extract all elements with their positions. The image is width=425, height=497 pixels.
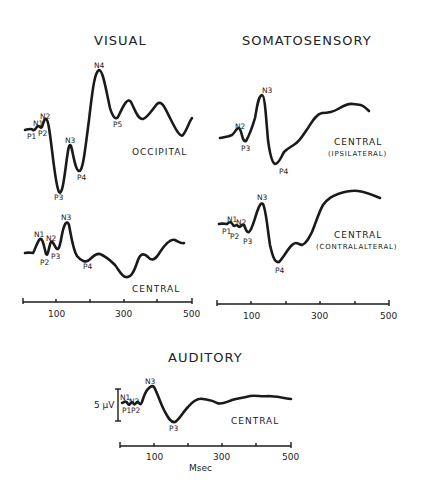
peak-label: N2 [235, 123, 245, 131]
peak-label: P4 [77, 174, 86, 182]
scale-bar-label: 5 µV [94, 400, 114, 410]
site-sublabel-contralateral: (CONTRALALTERAL) [316, 243, 397, 251]
peak-label: N3 [262, 87, 272, 95]
tick-label: 500 [183, 309, 200, 319]
peak-label: N3 [257, 194, 267, 202]
peak-label: N3 [65, 137, 75, 145]
tick-label: 300 [115, 309, 132, 319]
peak-label: N3 [145, 378, 155, 386]
peak-label: P3 [51, 253, 60, 261]
peak-label: P2 [230, 233, 239, 241]
tick-label: 100 [146, 452, 163, 462]
peak-label: P5 [113, 121, 122, 129]
peak-label: P3 [243, 238, 252, 246]
visual-title: VISUAL [94, 33, 147, 48]
peak-label: N1 [34, 231, 44, 239]
x-axis-label: Msec [189, 463, 212, 473]
site-label-central: CENTRAL [334, 230, 382, 240]
visual-occipital-trace [25, 70, 192, 193]
tick-label: 100 [243, 311, 260, 321]
peak-label: N2 [46, 235, 56, 243]
somatosensory-title: SOMATOSENSORY [242, 33, 372, 48]
visual-central-trace [25, 223, 184, 278]
peak-label: P4 [275, 267, 284, 275]
peak-label: P2 [38, 130, 47, 138]
peak-label: P1 [122, 407, 131, 415]
site-label-central: CENTRAL [334, 137, 382, 147]
peak-label: N4 [94, 62, 104, 70]
tick-label: 300 [213, 452, 230, 462]
peak-label: P4 [83, 263, 92, 271]
auditory-title: AUDITORY [168, 350, 243, 365]
peak-label: P3 [169, 425, 178, 433]
peak-label: P2 [131, 407, 140, 415]
peak-label: P2 [40, 259, 49, 267]
peak-label: N1 [33, 120, 43, 128]
site-label-occipital: OCCIPITAL [132, 147, 187, 157]
site-label-central: CENTRAL [132, 284, 180, 294]
tick-label: 300 [311, 311, 328, 321]
peak-label: P3 [54, 194, 63, 202]
peak-label: N2 [40, 113, 50, 121]
peak-label: P4 [279, 168, 288, 176]
peak-label: N3 [61, 214, 71, 222]
tick-label: 500 [380, 311, 397, 321]
peak-label: N2 [129, 398, 139, 406]
tick-label: 100 [48, 309, 65, 319]
tick-label: 500 [282, 452, 299, 462]
peak-label: P1 [27, 133, 36, 141]
site-sublabel-ipsilateral: (IPSILATERAL) [328, 150, 387, 158]
peak-label: N2 [236, 219, 246, 227]
site-label-central: CENTRAL [231, 416, 279, 426]
peak-label: P3 [241, 145, 250, 153]
